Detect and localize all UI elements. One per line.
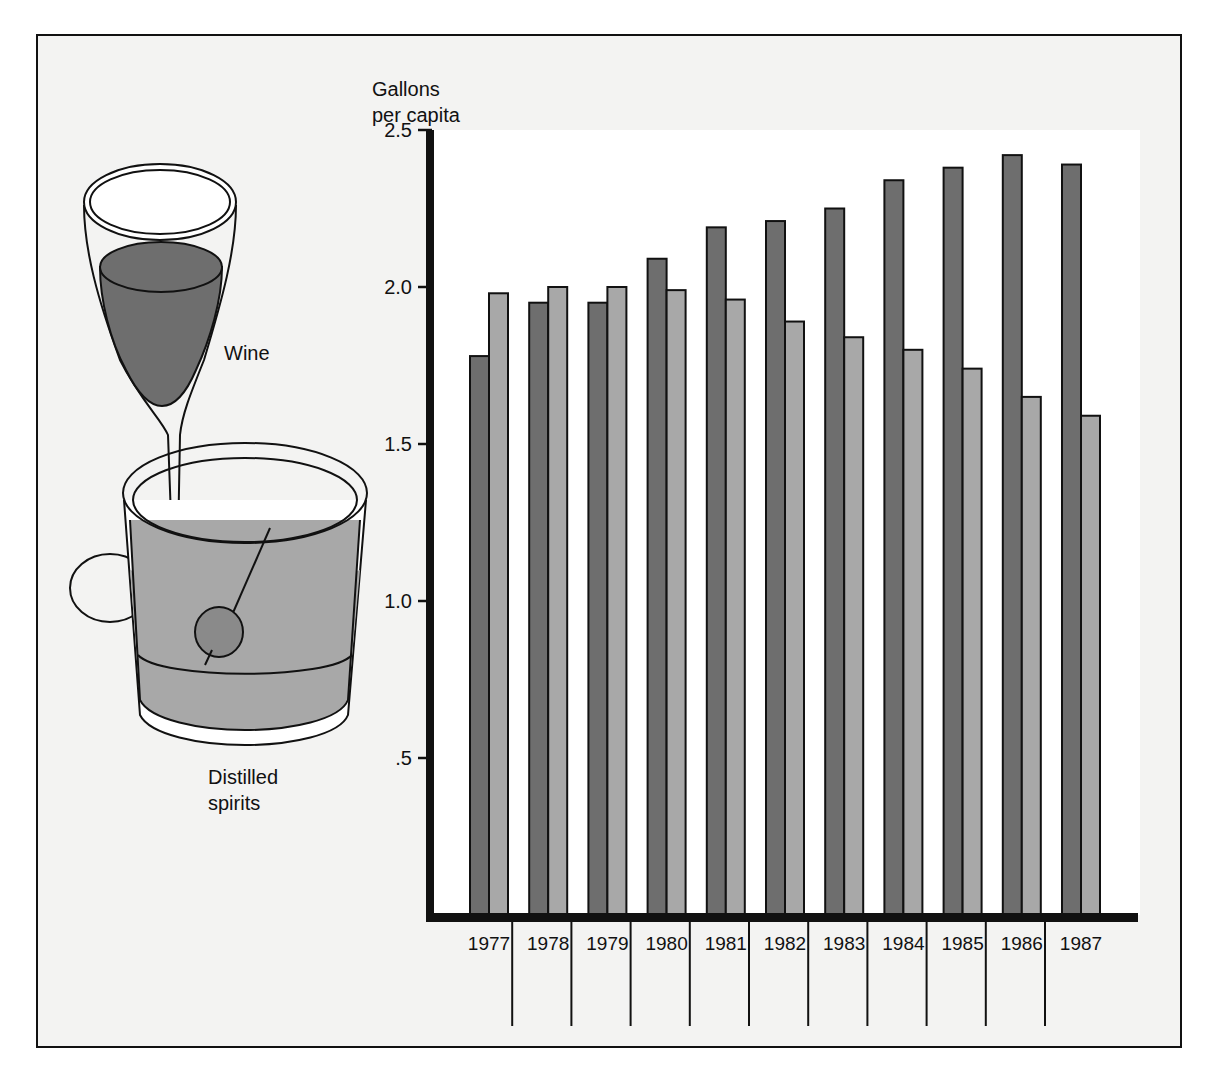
bar-wine-1984 <box>884 180 903 915</box>
y-tick-label: .5 <box>395 747 412 769</box>
legend-label-spirits-line-2: spirits <box>208 792 260 814</box>
y-ticks: .51.01.52.02.5 <box>384 119 432 769</box>
bar-wine-1979 <box>588 303 607 915</box>
bar-distilled-spirits-1984 <box>903 350 922 915</box>
bar-wine-1987 <box>1062 165 1081 915</box>
x-tick-label: 1977 <box>468 933 510 954</box>
legend-label-wine: Wine <box>224 342 270 364</box>
bar-wine-1986 <box>1003 155 1022 915</box>
spirits-glass-icon <box>70 443 367 745</box>
x-ticks: 1977197819791980198119821983198419851986… <box>468 922 1102 1026</box>
bar-wine-1983 <box>825 209 844 916</box>
bar-distilled-spirits-1986 <box>1022 397 1041 915</box>
bar-wine-1977 <box>470 356 489 915</box>
y-tick-label: 1.5 <box>384 433 412 455</box>
x-tick-label: 1984 <box>882 933 925 954</box>
y-tick-label: 2.5 <box>384 119 412 141</box>
bar-distilled-spirits-1977 <box>489 293 508 915</box>
bar-wine-1981 <box>707 227 726 915</box>
bar-wine-1980 <box>648 259 667 915</box>
x-tick-label: 1981 <box>705 933 747 954</box>
y-axis-line <box>426 130 434 920</box>
x-tick-label: 1987 <box>1060 933 1102 954</box>
x-tick-label: 1983 <box>823 933 865 954</box>
chart: Gallons per capita .51.01.52.02.5 197719… <box>0 0 1214 1080</box>
bar-distilled-spirits-1982 <box>785 322 804 915</box>
x-tick-label: 1979 <box>586 933 628 954</box>
bar-wine-1985 <box>944 168 963 915</box>
x-tick-label: 1978 <box>527 933 569 954</box>
x-tick-label: 1985 <box>941 933 983 954</box>
y-tick-label: 1.0 <box>384 590 412 612</box>
wine-glass-icon <box>84 164 236 545</box>
bar-wine-1978 <box>529 303 548 915</box>
x-tick-label: 1980 <box>645 933 687 954</box>
y-tick-label: 2.0 <box>384 276 412 298</box>
bar-distilled-spirits-1983 <box>844 337 863 915</box>
x-axis-line <box>426 913 1138 922</box>
bar-distilled-spirits-1978 <box>548 287 567 915</box>
legend-label-spirits-line-1: Distilled <box>208 766 278 788</box>
y-axis-title-line-1: Gallons <box>372 78 440 100</box>
bar-distilled-spirits-1985 <box>963 369 982 915</box>
bar-distilled-spirits-1987 <box>1081 416 1100 915</box>
bar-distilled-spirits-1980 <box>667 290 686 915</box>
bar-wine-1982 <box>766 221 785 915</box>
x-tick-label: 1982 <box>764 933 806 954</box>
chart-frame: Gallons per capita .51.01.52.02.5 197719… <box>36 34 1182 1048</box>
bar-distilled-spirits-1981 <box>726 300 745 915</box>
x-tick-label: 1986 <box>1001 933 1043 954</box>
bar-distilled-spirits-1979 <box>607 287 626 915</box>
